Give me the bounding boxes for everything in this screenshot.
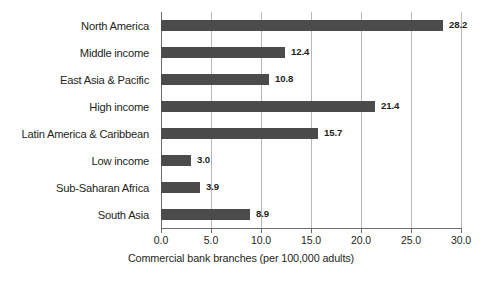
gridline	[461, 12, 462, 228]
bar	[161, 128, 318, 139]
x-axis-tick-label: 15.0	[291, 233, 331, 247]
x-axis-title: Commercial bank branches (per 100,000 ad…	[0, 252, 482, 264]
bar	[161, 209, 250, 220]
bar-value-label: 10.8	[275, 73, 293, 85]
x-axis-tick-label: 0.0	[141, 233, 181, 247]
category-label: Low income	[92, 154, 149, 168]
bar	[161, 20, 443, 31]
y-axis-line	[161, 12, 162, 228]
x-axis-tick-labels: 0.05.010.015.020.025.030.0	[161, 233, 461, 247]
bar	[161, 47, 285, 58]
gridline	[361, 12, 362, 228]
bar-value-label: 15.7	[324, 127, 342, 139]
bar-value-label: 12.4	[291, 46, 309, 58]
gridline	[261, 12, 262, 228]
x-axis-tick-label: 20.0	[341, 233, 381, 247]
bar-value-label: 21.4	[381, 100, 399, 112]
bar-value-label: 3.9	[206, 181, 219, 193]
bar-value-label: 28.2	[449, 19, 467, 31]
category-label: High income	[89, 100, 149, 114]
category-axis: North AmericaMiddle incomeEast Asia & Pa…	[0, 12, 155, 228]
x-axis-tick-label: 10.0	[241, 233, 281, 247]
bar-chart: North AmericaMiddle incomeEast Asia & Pa…	[0, 0, 482, 281]
bar-value-label: 3.0	[197, 154, 210, 166]
gridline	[211, 12, 212, 228]
gridline	[411, 12, 412, 228]
x-axis-tick-label: 5.0	[191, 233, 231, 247]
category-label: Sub-Saharan Africa	[56, 181, 149, 195]
category-label: North America	[81, 19, 149, 33]
x-axis-tick-label: 25.0	[391, 233, 431, 247]
gridline	[311, 12, 312, 228]
bar-value-label: 8.9	[256, 208, 269, 220]
bar	[161, 74, 269, 85]
category-label: South Asia	[98, 208, 149, 222]
category-label: Latin America & Caribbean	[22, 127, 149, 141]
category-label: East Asia & Pacific	[60, 73, 149, 87]
bar	[161, 155, 191, 166]
bar	[161, 101, 375, 112]
bar	[161, 182, 200, 193]
category-label: Middle income	[80, 46, 149, 60]
plot-area: 28.212.410.821.415.73.03.98.9	[161, 12, 461, 228]
x-axis-tick-label: 30.0	[441, 233, 481, 247]
